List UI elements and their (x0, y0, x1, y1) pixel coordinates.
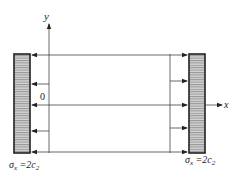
left-support-block (14, 54, 30, 153)
y-axis-label: y (43, 10, 49, 22)
stress-diagram: y 0 x σx =2c2 σx =2c2 (0, 0, 239, 181)
left-stress-label: σx =2c2 (9, 159, 40, 172)
right-stress-label: σx =2c2 (185, 154, 216, 167)
origin-label: 0 (40, 91, 45, 102)
right-support-block (189, 54, 205, 153)
x-axis-label: x (223, 99, 229, 110)
lower-short-arrows (32, 128, 187, 131)
upper-short-arrows (32, 81, 187, 84)
